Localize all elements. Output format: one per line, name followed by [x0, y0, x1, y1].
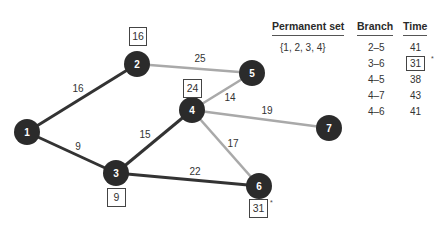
node-label-5: 5: [249, 68, 255, 79]
node-label-2: 2: [134, 59, 140, 70]
edge-weight-1-3: 9: [75, 141, 81, 152]
time-value-node-4: 24: [187, 82, 199, 94]
node-label-4: 4: [189, 105, 195, 116]
time-cell: 38: [410, 74, 421, 85]
branch-cell: 4–7: [368, 90, 385, 101]
node-label-7: 7: [326, 123, 332, 134]
edge-3-4: [116, 110, 192, 173]
time-cell: 43: [410, 90, 421, 101]
edge-weight-1-2: 16: [72, 83, 84, 94]
time-value-node-3: 9: [114, 191, 120, 203]
nodes-layer: 1234567: [14, 51, 342, 199]
edge-weight-3-4: 15: [139, 129, 151, 140]
edge-weight-3-6: 22: [189, 166, 201, 177]
edge-1-3: [27, 132, 116, 173]
branch-cell: 4–6: [368, 106, 385, 117]
edge-weight-4-7: 19: [261, 105, 273, 116]
edge-4-6: [192, 110, 259, 186]
node-label-3: 3: [113, 168, 119, 179]
asterisk-mark: *: [270, 199, 273, 206]
edge-3-6: [116, 173, 259, 186]
time-cell: 41: [410, 42, 421, 53]
permanent-set-value: {1, 2, 3, 4}: [280, 42, 326, 53]
header-time: Time: [403, 20, 427, 36]
node-label-6: 6: [256, 181, 262, 192]
branch-cell: 2–5: [368, 42, 385, 53]
edge-weight-4-5: 14: [224, 92, 236, 103]
edge-weight-2-5: 25: [194, 53, 206, 64]
node-label-1: 1: [24, 127, 30, 138]
time-cell: 31: [406, 56, 425, 71]
branch-cell: 4–5: [368, 74, 385, 85]
time-cell: 41: [410, 106, 421, 117]
header-branch: Branch: [357, 20, 393, 36]
header-permanent-set: Permanent set: [272, 20, 344, 36]
time-value-node-6: 31: [253, 202, 265, 214]
asterisk-mark: *: [431, 55, 434, 62]
branch-cell: 3–6: [368, 58, 385, 69]
edge-1-2: [27, 64, 137, 132]
time-value-node-2: 16: [132, 30, 144, 42]
edge-2-5: [137, 64, 252, 73]
edge-weight-4-6: 17: [227, 138, 239, 149]
